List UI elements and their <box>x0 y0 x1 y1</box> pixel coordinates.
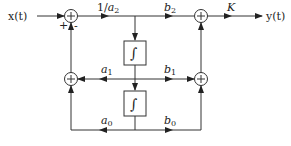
integral-icon: ∫ <box>130 45 137 61</box>
plus-sign: + <box>59 19 68 32</box>
gain-forward-label: 1/a2 <box>97 1 119 15</box>
gain-b1-label: b1 <box>164 63 176 77</box>
gain-a1-label: a1 <box>101 63 113 77</box>
gain-b0-label: b0 <box>164 114 176 128</box>
integral-icon: ∫ <box>130 96 137 112</box>
output-label: y(t) <box>265 10 285 23</box>
input-label: x(t) <box>8 10 27 23</box>
block-diagram: x(t) y(t) + - 1/a2 b2 K a1 b1 a0 b0 ∫ ∫ <box>0 0 291 146</box>
gain-k-label: K <box>226 1 236 14</box>
minus-sign: - <box>74 20 78 33</box>
gain-a0-label: a0 <box>101 114 113 128</box>
gain-b2-label: b2 <box>164 1 176 15</box>
